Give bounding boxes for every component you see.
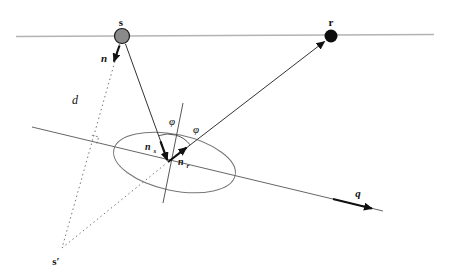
interface-vector-label: q [355, 187, 361, 199]
incidence-angle-label: φ [169, 115, 175, 127]
reflection-angle-label: φ [193, 123, 199, 135]
diagram-svg: s r s′ n d φ φ n s n r q [0, 0, 450, 280]
angle-arc [158, 134, 190, 145]
source-label: s [119, 16, 124, 28]
interface-line [32, 127, 383, 211]
distance-label: d [72, 93, 79, 107]
incident-vector-label: n [145, 141, 151, 152]
image-source-to-reflection-dotted-line [62, 164, 166, 248]
reflected-vector-label: n [178, 156, 184, 167]
source-marker [115, 29, 130, 44]
incident-vector-subscript: s [153, 147, 157, 155]
surface-normal-vector-arrow [114, 46, 120, 62]
image-source-label: s′ [52, 255, 59, 267]
surface-normal-label: n [101, 52, 107, 64]
receiver-label: r [329, 16, 334, 28]
interface-vector-arrow [333, 199, 372, 209]
reflected-vector-subscript: r [187, 162, 190, 170]
incident-ray [126, 44, 163, 145]
receiver-marker [325, 30, 338, 43]
reflection-geometry-figure: s r s′ n d φ φ n s n r q [0, 0, 450, 280]
incident-direction-vector-arrow [161, 141, 168, 160]
reflected-ray-arrow [168, 42, 325, 163]
acquisition-surface-line [16, 35, 434, 37]
